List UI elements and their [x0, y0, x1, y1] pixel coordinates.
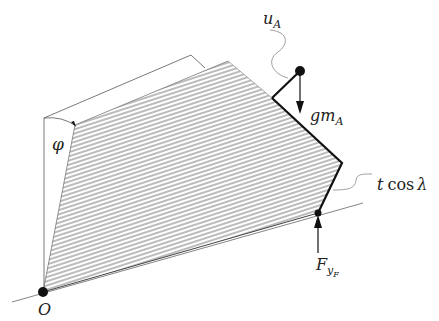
origin-point	[38, 287, 48, 297]
origin-label: O	[38, 300, 51, 319]
hatched-body	[43, 61, 342, 292]
length-leader	[333, 174, 372, 190]
reaction-force-arrowhead	[314, 215, 322, 228]
point-a-label: uA	[263, 9, 281, 31]
length-label: tcosλ	[377, 175, 427, 194]
arm-to-point-a	[272, 71, 300, 98]
mechanics-diagram: φ gmA uA tcosλ FyF O	[0, 0, 439, 321]
point-a-leader	[270, 30, 288, 78]
angle-label-phi: φ	[52, 134, 64, 154]
angle-arrowhead	[71, 121, 76, 127]
gravity-arrowhead	[296, 101, 304, 114]
angle-arc	[44, 118, 76, 126]
gravity-label: gmA	[310, 106, 343, 128]
reaction-force-label: FyF	[315, 255, 339, 279]
